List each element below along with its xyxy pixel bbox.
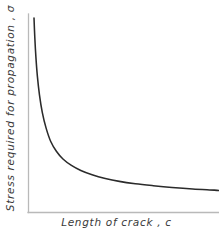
x-axis-label: Length of crack , c — [0, 216, 219, 228]
plot-area — [0, 0, 219, 232]
stress-vs-crack-length-curve — [34, 18, 219, 191]
y-axis-label: Stress required for propagation , σ — [4, 4, 16, 210]
y-axis-label-container: Stress required for propagation , σ — [0, 0, 20, 215]
figure-container: Stress required for propagation , σ Leng… — [0, 0, 219, 232]
